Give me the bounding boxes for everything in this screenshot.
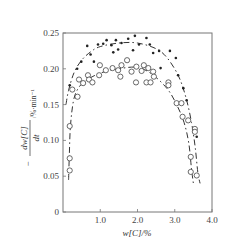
- open-circle-marker: [97, 63, 102, 68]
- open-circle-marker: [166, 83, 171, 88]
- open-circle-marker: [90, 80, 95, 85]
- open-circle-marker: [67, 123, 72, 128]
- filled-dot-marker: [148, 43, 151, 46]
- filled-dot-marker: [185, 99, 188, 102]
- open-circle-marker: [67, 168, 72, 173]
- filled-dot-marker: [152, 52, 155, 55]
- data-points: [67, 35, 199, 179]
- filled-dot-marker: [132, 49, 135, 52]
- filled-dot-marker: [177, 74, 180, 77]
- open-circle-marker: [75, 94, 80, 99]
- x-tick-label: 2.0: [132, 215, 144, 225]
- filled-dot-marker: [89, 53, 92, 56]
- filled-dot-marker: [80, 60, 83, 63]
- open-circle-marker: [118, 74, 123, 79]
- filled-dot-marker: [182, 87, 185, 90]
- y-tick-label: 0: [55, 207, 60, 217]
- open-circle-marker: [119, 63, 124, 68]
- open-circle-marker: [179, 101, 184, 106]
- filled-dot-marker: [134, 35, 137, 38]
- filled-dot-marker: [86, 45, 89, 48]
- open-circle-marker: [174, 101, 179, 106]
- y-tick-label: 0.05: [43, 171, 59, 181]
- filled-dot-marker: [195, 136, 198, 139]
- open-circle-marker: [180, 114, 185, 119]
- open-circle-marker: [97, 73, 102, 78]
- open-circle-marker: [139, 68, 144, 73]
- open-circle-marker: [186, 118, 191, 123]
- filled-dot-marker: [117, 48, 120, 51]
- filled-dot-marker: [68, 84, 71, 87]
- filled-dot-marker: [138, 43, 141, 46]
- open-circle-marker: [124, 58, 129, 63]
- open-circle-marker: [194, 173, 199, 178]
- y-axis-numerator: dw[C]: [19, 126, 29, 150]
- x-tick-label: 3.0: [169, 215, 181, 225]
- open-circle-marker: [103, 68, 108, 73]
- open-circle-marker: [129, 69, 134, 74]
- open-circle-marker: [67, 156, 72, 161]
- open-circle-marker: [146, 65, 151, 70]
- open-circle-marker: [151, 74, 156, 79]
- y-tick-label: 0.20: [43, 64, 59, 74]
- y-tick-label: 0.25: [43, 28, 59, 38]
- open-circle-marker: [70, 87, 75, 92]
- y-tick-label: 0.15: [43, 100, 59, 110]
- filled-dot-marker: [102, 42, 105, 45]
- y-axis-minus: −: [23, 161, 33, 166]
- fit-curves: [66, 42, 200, 183]
- open-circle-marker: [81, 81, 86, 86]
- filled-dot-marker: [127, 37, 130, 40]
- filled-dot-marker: [105, 39, 108, 42]
- filled-dot-marker: [115, 39, 118, 42]
- open-circle-marker: [188, 169, 193, 174]
- x-tick-label: 1.0: [95, 215, 107, 225]
- fit-curve: [69, 67, 194, 183]
- x-axis-title: w[C]/%: [122, 228, 151, 238]
- open-circle-marker: [151, 69, 156, 74]
- filled-dot-marker: [158, 50, 161, 53]
- x-ticks: 1.02.03.04.0: [95, 209, 219, 225]
- filled-dot-marker: [175, 57, 178, 60]
- open-circle-marker: [148, 80, 153, 85]
- open-circle-marker: [116, 68, 121, 73]
- filled-dot-marker: [112, 51, 115, 54]
- filled-dot-marker: [145, 37, 148, 40]
- x-tick-label: 4.0: [206, 215, 218, 225]
- y-axis-title: − dw[C] dt /%·min⁻¹: [19, 89, 41, 166]
- y-axis-denominator: dt: [31, 134, 41, 142]
- filled-dot-marker: [97, 43, 100, 46]
- open-circle-marker: [110, 65, 115, 70]
- open-circle-marker: [134, 64, 139, 69]
- chart: − dw[C] dt /%·min⁻¹ 00.050.100.150.200.2…: [0, 0, 235, 252]
- filled-dot-marker: [93, 60, 96, 63]
- filled-dot-marker: [159, 67, 162, 70]
- open-circle-marker: [192, 129, 197, 134]
- y-tick-label: 0.10: [43, 135, 59, 145]
- open-circle-marker: [133, 80, 138, 85]
- filled-dot-marker: [110, 44, 113, 47]
- filled-dot-marker: [169, 50, 172, 53]
- filled-dot-marker: [76, 68, 79, 71]
- fit-curve: [66, 42, 200, 183]
- filled-dot-marker: [120, 42, 123, 45]
- open-circle-marker: [188, 154, 193, 159]
- y-axis-unit: /%·min⁻¹: [29, 89, 38, 118]
